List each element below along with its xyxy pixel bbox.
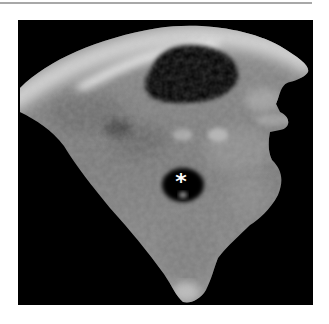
ultrasound-image-panel: * [18,20,313,305]
ultrasound-fan-graphic [18,20,313,305]
asterisk-marker: * [173,172,189,192]
top-rule-divider [0,2,312,4]
